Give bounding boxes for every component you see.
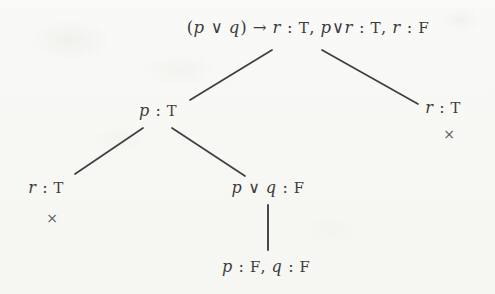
formula-token: T xyxy=(54,179,64,196)
formula-token: r xyxy=(344,18,353,37)
formula-token: ∨ xyxy=(332,18,344,37)
edge-root-to-r-true-right xyxy=(322,50,418,104)
closed-branch-marker-right: × xyxy=(443,127,455,141)
formula-token: : xyxy=(277,178,294,197)
formula-token: ( xyxy=(187,18,194,37)
edge-p-true-to-p-or-q-false xyxy=(172,128,245,176)
closed-branch-marker-left: × xyxy=(46,211,58,225)
formula-token: : xyxy=(434,98,451,117)
tree-node-p-or-q-false: p ∨ q : F xyxy=(232,180,305,196)
tree-node-r-true-right: r : T xyxy=(425,100,461,116)
formula-token: : xyxy=(283,257,300,276)
formula-token: : xyxy=(401,18,418,37)
formula-token: ) → xyxy=(240,18,272,37)
formula-token: q xyxy=(266,178,277,197)
formula-token: , xyxy=(381,18,392,37)
tree-node-r-true-left: r : T xyxy=(28,180,64,196)
formula-token: p xyxy=(320,18,331,37)
formula-token: : xyxy=(281,18,298,37)
formula-token: p xyxy=(232,178,243,197)
edge-p-true-to-r-true-left xyxy=(75,128,143,174)
formula-token: r xyxy=(273,18,282,37)
formula-token: : xyxy=(353,18,370,37)
formula-token: T xyxy=(451,99,461,116)
formula-token: r xyxy=(425,98,434,117)
formula-token: ∨ xyxy=(243,178,266,197)
formula-token: T xyxy=(370,19,381,37)
formula-token: q xyxy=(271,257,282,276)
tree-node-p-true: p : T xyxy=(139,103,177,119)
edge-root-to-p-true xyxy=(190,50,272,100)
formula-token: F xyxy=(299,258,310,275)
formula-token: F xyxy=(418,19,429,37)
formula-token: : xyxy=(150,101,167,120)
formula-token: p xyxy=(139,101,150,120)
formula-token: r xyxy=(28,178,37,197)
tree-edges-layer xyxy=(0,0,495,294)
formula-token: T xyxy=(167,102,177,119)
tree-node-root: (p ∨ q) → r : T, p∨r : T, r : F xyxy=(187,20,430,37)
formula-token: T xyxy=(299,19,310,37)
formula-token: p xyxy=(194,18,205,37)
formula-token: p xyxy=(222,257,233,276)
formula-token: ∨ xyxy=(205,18,229,37)
formula-token: F xyxy=(294,179,305,196)
formula-token: q xyxy=(229,18,240,37)
formula-token: : xyxy=(233,257,250,276)
proof-tree-figure: (p ∨ q) → r : T, p∨r : T, r : F p : T r … xyxy=(0,0,495,294)
formula-token: : xyxy=(37,178,54,197)
formula-token: , xyxy=(309,18,320,37)
formula-token: F xyxy=(250,258,261,275)
formula-token: , xyxy=(261,257,272,276)
tree-node-p-false-q-false: p : F, q : F xyxy=(222,259,310,275)
